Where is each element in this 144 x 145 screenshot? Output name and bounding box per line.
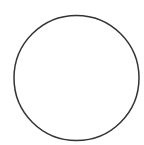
circle-shape (14, 16, 139, 141)
diagram-canvas (0, 0, 144, 145)
diagram-svg (0, 0, 144, 145)
